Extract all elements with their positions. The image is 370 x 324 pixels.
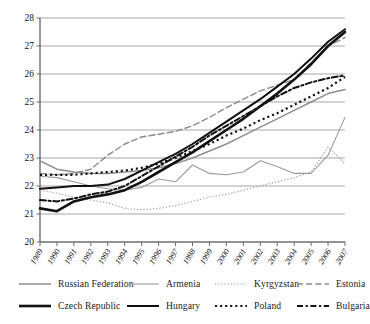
legend-swatch <box>296 279 330 289</box>
legend-item[interactable]: Kyrgyzstan <box>214 278 299 289</box>
y-tick-label: 21 <box>25 209 35 219</box>
legend-label: Hungary <box>166 300 200 311</box>
x-tick-label: 1998 <box>181 247 197 266</box>
series-line <box>40 77 345 175</box>
legend-item[interactable]: Hungary <box>126 300 200 311</box>
legend-label: Russian Federation <box>58 278 134 289</box>
chart-legend: Russian FederationArmeniaKyrgyzstanEston… <box>0 274 366 324</box>
legend-label: Kyrgyzstan <box>254 278 299 289</box>
legend-row: Russian FederationArmeniaKyrgyzstanEston… <box>0 274 366 296</box>
x-tick-label: 1994 <box>113 247 129 266</box>
x-tick-label: 1993 <box>96 247 112 266</box>
x-tick-label: 1989 <box>29 247 45 266</box>
series-line <box>40 38 345 175</box>
legend-item[interactable]: Poland <box>214 300 281 311</box>
x-tick-label: 1991 <box>62 247 78 266</box>
x-tick-label: 1997 <box>164 247 181 266</box>
x-tick-label: 1999 <box>198 247 214 266</box>
x-tick-label: 2004 <box>283 247 299 266</box>
legend-item[interactable]: Russian Federation <box>18 278 134 289</box>
legend-item[interactable]: Estonia <box>296 278 365 289</box>
x-tick-label: 2001 <box>232 247 248 266</box>
y-tick-label: 20 <box>25 237 35 247</box>
series-line <box>40 147 345 210</box>
x-tick-label: 2005 <box>300 247 316 266</box>
legend-label: Armenia <box>166 278 200 289</box>
legend-label: Estonia <box>336 278 365 289</box>
legend-label: Poland <box>254 300 281 311</box>
legend-label: Bulgaria <box>336 300 370 311</box>
x-tick-label: 2002 <box>249 247 265 266</box>
y-tick-label: 28 <box>25 13 35 23</box>
y-tick-label: 27 <box>25 41 35 51</box>
legend-swatch <box>126 279 160 289</box>
x-tick-label: 2007 <box>334 247 351 266</box>
legend-item[interactable]: Bulgaria <box>296 300 370 311</box>
series-line <box>40 75 345 201</box>
legend-item[interactable]: Armenia <box>126 278 200 289</box>
legend-swatch <box>126 301 160 311</box>
y-tick-label: 25 <box>25 97 35 107</box>
legend-swatch <box>18 279 52 289</box>
x-tick-label: 2000 <box>215 247 231 266</box>
y-tick-label: 23 <box>25 153 35 163</box>
x-tick-label: 1996 <box>147 247 164 266</box>
legend-swatch <box>18 301 52 311</box>
legend-item[interactable]: Czech Republic <box>18 300 120 311</box>
x-tick-label: 1990 <box>46 247 62 266</box>
legend-swatch <box>214 279 248 289</box>
x-tick-label: 1995 <box>130 247 146 266</box>
legend-swatch <box>296 301 330 311</box>
x-tick-label: 2006 <box>317 247 334 266</box>
y-tick-label: 24 <box>25 125 35 135</box>
legend-label: Czech Republic <box>58 300 120 311</box>
x-tick-label: 2003 <box>266 247 282 266</box>
legend-swatch <box>214 301 248 311</box>
y-tick-label: 26 <box>25 69 35 79</box>
legend-row: Czech RepublicHungaryPolandBulgaria <box>0 296 366 318</box>
x-tick-label: 1992 <box>79 247 95 266</box>
y-tick-label: 22 <box>25 181 35 191</box>
